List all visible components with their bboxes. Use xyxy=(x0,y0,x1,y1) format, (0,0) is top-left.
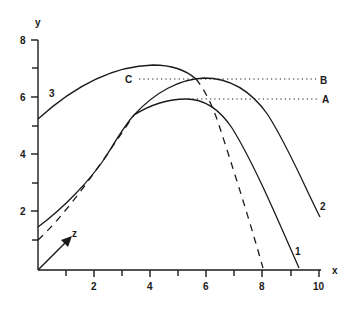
y-tick-label-6: 6 xyxy=(20,92,26,103)
curve-label-3: 3 xyxy=(49,88,55,99)
curve-3-dashed xyxy=(196,79,263,268)
curve-2 xyxy=(134,78,320,217)
y-tick-label-2: 2 xyxy=(20,206,26,217)
curve-shared-rise xyxy=(38,115,134,227)
y-tick-label-4: 4 xyxy=(20,149,26,160)
x-tick-label-8: 8 xyxy=(259,281,265,292)
z-vector-label: z xyxy=(72,228,77,239)
z-vector: z xyxy=(38,228,77,270)
y-axis-ticks xyxy=(31,40,38,240)
x-tick-label-6: 6 xyxy=(203,281,209,292)
point-label-c: C xyxy=(125,74,132,85)
diagram-canvas: y x 8 6 4 2 2 4 6 8 10 C B A 1 2 3 z xyxy=(0,0,353,309)
axes xyxy=(31,40,321,277)
x-axis-label: x xyxy=(332,265,338,276)
point-label-a: A xyxy=(322,94,329,105)
curve-label-1: 1 xyxy=(295,246,301,257)
x-tick-label-10: 10 xyxy=(313,281,325,292)
curve-3 xyxy=(38,65,196,119)
x-tick-label-4: 4 xyxy=(147,281,153,292)
z-vector-line xyxy=(38,240,68,270)
y-tick-label-8: 8 xyxy=(20,35,26,46)
point-label-b: B xyxy=(320,75,327,86)
curve-label-2: 2 xyxy=(320,201,326,212)
x-tick-label-2: 2 xyxy=(91,281,97,292)
y-axis-label: y xyxy=(35,17,41,28)
x-axis-ticks xyxy=(66,270,319,277)
